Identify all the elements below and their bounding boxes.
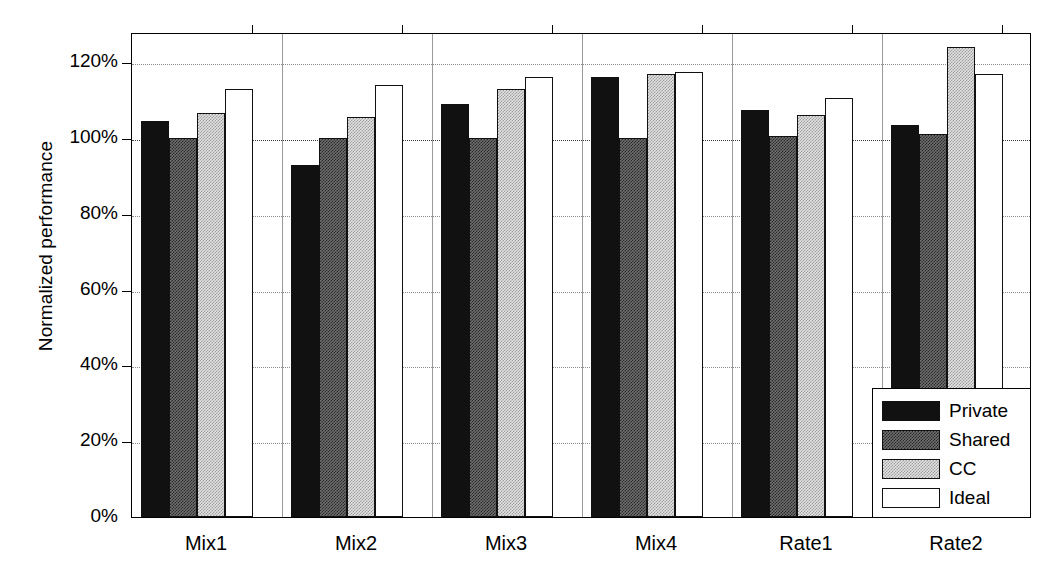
top-tick-4 xyxy=(852,25,853,33)
bar-mix4-ideal xyxy=(675,72,703,517)
bar-mix2-shared xyxy=(319,138,347,517)
top-tick-3 xyxy=(702,25,703,33)
legend-swatch-private xyxy=(882,401,940,421)
bar-mix2-ideal xyxy=(375,85,403,517)
y-tick-60 xyxy=(122,291,131,292)
bar-mix3-private xyxy=(441,104,469,517)
bar-mix1-ideal xyxy=(225,89,253,517)
bar-rate1-private xyxy=(741,110,769,517)
legend-item-cc: CC xyxy=(873,454,1030,483)
legend-swatch-cc xyxy=(882,459,940,479)
bar-mix2-private xyxy=(291,165,319,517)
bar-mix4-private xyxy=(591,77,619,517)
top-tick-0 xyxy=(252,25,253,33)
bar-mix1-private xyxy=(141,121,169,517)
y-tick-120 xyxy=(122,63,131,64)
legend-label-cc: CC xyxy=(949,458,976,480)
legend-swatch-ideal xyxy=(882,488,940,508)
bar-rate1-cc xyxy=(797,115,825,517)
top-tick-1 xyxy=(402,25,403,33)
bar-mix3-ideal xyxy=(525,77,553,517)
legend-label-ideal: Ideal xyxy=(949,487,990,509)
y-tick-20 xyxy=(122,442,131,443)
top-tick-5 xyxy=(1002,25,1003,33)
legend-label-shared: Shared xyxy=(949,429,1010,451)
legend-item-ideal: Ideal xyxy=(873,483,1030,512)
bar-mix4-cc xyxy=(647,74,675,517)
bar-rate1-shared xyxy=(769,136,797,517)
legend-item-shared: Shared xyxy=(873,425,1030,454)
legend-label-private: Private xyxy=(949,400,1008,422)
legend: PrivateSharedCCIdeal xyxy=(872,388,1031,518)
bar-rate1-ideal xyxy=(825,98,853,517)
bar-mix2-cc xyxy=(347,117,375,517)
bar-mix1-cc xyxy=(197,113,225,517)
bar-mix3-cc xyxy=(497,89,525,517)
legend-item-private: Private xyxy=(873,396,1030,425)
y-tick-80 xyxy=(122,215,131,216)
bar-chart: Normalized performance 0%20%40%60%80%100… xyxy=(0,0,1063,576)
top-tick-2 xyxy=(552,25,553,33)
bar-mix1-shared xyxy=(169,138,197,517)
x-axis-label-rate2: Rate2 xyxy=(866,532,1046,555)
legend-swatch-shared xyxy=(882,430,940,450)
y-tick-100 xyxy=(122,139,131,140)
y-tick-40 xyxy=(122,366,131,367)
bar-mix4-shared xyxy=(619,138,647,517)
bar-mix3-shared xyxy=(469,138,497,517)
